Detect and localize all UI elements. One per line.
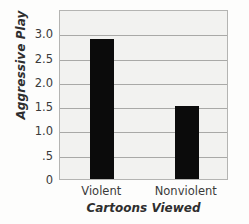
gridline <box>60 60 227 61</box>
bar <box>175 106 199 179</box>
x-axis-category-label: Nonviolent <box>155 184 217 198</box>
y-axis-tick-label: 2.0 <box>7 76 53 90</box>
gridline <box>60 84 227 85</box>
plot-area <box>59 10 228 180</box>
y-axis-tick-labels: 0.51.01.52.02.53.0 <box>6 10 53 180</box>
bar <box>90 39 114 179</box>
y-axis-tick-label: 1.5 <box>7 100 53 114</box>
bar-chart-figure: Aggressive Play 0.51.01.52.02.53.0 Carto… <box>0 0 249 224</box>
y-axis-tick-label: 3.0 <box>7 27 53 41</box>
gridline <box>60 108 227 109</box>
gridline <box>60 157 227 158</box>
x-axis-category-label: Violent <box>81 184 121 198</box>
y-axis-tick-label: 1.0 <box>7 124 53 138</box>
plot-inner <box>60 11 227 179</box>
gridline <box>60 132 227 133</box>
y-axis-tick-label: .5 <box>7 149 53 163</box>
x-axis-title: Cartoons Viewed <box>59 201 228 215</box>
gridline <box>60 35 227 36</box>
y-axis-tick-label: 2.5 <box>7 52 53 66</box>
y-axis-tick-label: 0 <box>7 173 53 187</box>
